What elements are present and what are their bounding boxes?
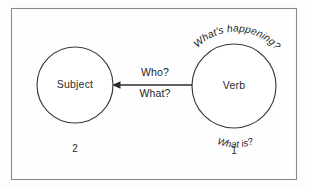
node-verb-label: Verb	[223, 79, 245, 91]
diagram-svg: Subject 2 Verb 1 Who? What? What's happe…	[0, 0, 310, 189]
diagram-canvas: Subject 2 Verb 1 Who? What? What's happe…	[0, 0, 310, 189]
node-subject-label: Subject	[57, 78, 93, 90]
edge-label-what: What?	[140, 87, 171, 99]
node-subject-order-number: 2	[72, 143, 78, 154]
edge-label-who: Who?	[141, 66, 169, 78]
